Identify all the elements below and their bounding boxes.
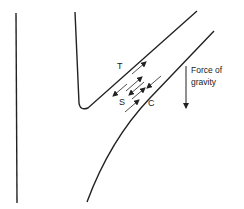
label-shear: S [119,97,125,107]
trunk-left-edge [16,13,17,203]
label-tension: T [117,61,123,71]
label-compression: C [148,98,155,108]
gravity-label-line1: Force of [191,65,223,75]
branch-upper-edge [75,11,197,109]
branch-lower-edge [87,31,214,202]
gravity-label-line2: gravity [191,77,217,87]
crotch-force-diagram: T S C Force of gravity [0,0,244,209]
